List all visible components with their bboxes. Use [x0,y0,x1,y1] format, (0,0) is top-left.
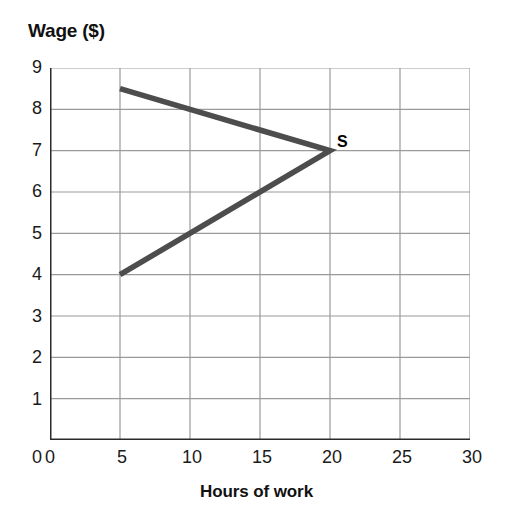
x-tick-label-10: 10 [169,448,215,466]
y-tick-label-1: 1 [12,390,42,408]
y-tick-label-8: 8 [12,99,42,117]
x-tick-label-30: 30 [449,448,495,466]
x-tick-label-25: 25 [379,448,425,466]
y-tick-label-5: 5 [12,224,42,242]
y-tick-label-4: 4 [12,265,42,283]
supply-curve-figure: Wage ($) 9 8 7 6 5 4 3 2 1 0 0 5 10 15 2… [0,0,513,527]
y-tick-label-3: 3 [12,307,42,325]
grid-lines [50,68,470,440]
x-tick-label-15: 15 [239,448,285,466]
y-tick-label-6: 6 [12,182,42,200]
y-tick-label-9: 9 [12,58,42,76]
supply-curve-label: S [337,134,348,150]
y-axis-title: Wage ($) [28,20,105,42]
y-tick-label-2: 2 [12,348,42,366]
y-tick-label-7: 7 [12,141,42,159]
x-tick-label-20: 20 [309,448,355,466]
x-axis-title: Hours of work [0,482,513,502]
x-tick-label-5: 5 [99,448,145,466]
plot-area [50,68,470,440]
x-tick-label-0: 0 [27,448,73,466]
supply-curve-line [120,89,330,275]
